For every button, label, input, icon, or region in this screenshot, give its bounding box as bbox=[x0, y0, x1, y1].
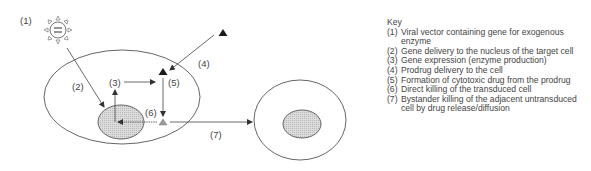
label-3: (3) bbox=[109, 77, 121, 88]
key-item: (7)Bystander killing of the adjacent unt… bbox=[387, 95, 591, 114]
key-num: (1) bbox=[387, 28, 401, 47]
gene-therapy-diagram: (1) (2) (3) (4) (5) (6) bbox=[0, 0, 380, 171]
key-num: (7) bbox=[387, 95, 401, 114]
key-text: Bystander killing of the adjacent untran… bbox=[401, 95, 591, 114]
label-1: (1) bbox=[20, 15, 32, 26]
viral-vector-icon bbox=[44, 16, 72, 44]
adjacent-cell-nucleus bbox=[283, 110, 321, 138]
label-4: (4) bbox=[198, 58, 210, 69]
prodrug-inside-icon bbox=[159, 68, 168, 75]
label-5: (5) bbox=[168, 77, 180, 88]
cytotoxic-drug-icon bbox=[159, 119, 167, 125]
key-text: Viral vector containing gene for exogeno… bbox=[401, 28, 591, 47]
label-7: (7) bbox=[210, 129, 222, 140]
label-2: (2) bbox=[72, 81, 84, 92]
arrow-gene-delivery bbox=[67, 48, 104, 107]
key-legend: Key (1)Viral vector containing gene for … bbox=[387, 18, 591, 114]
label-6: (6) bbox=[145, 107, 157, 118]
prodrug-outside-icon bbox=[219, 29, 228, 36]
key-item: (1)Viral vector containing gene for exog… bbox=[387, 28, 591, 47]
